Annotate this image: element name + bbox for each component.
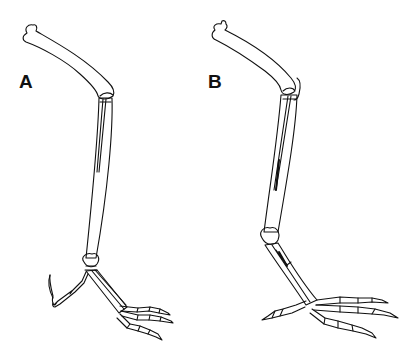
tibiotarsus-a <box>86 98 112 258</box>
femur-b <box>212 21 296 95</box>
hallux-b <box>262 301 306 320</box>
ankle-b <box>261 228 279 245</box>
tarsometatarsus-b-ridges <box>272 245 310 302</box>
toe-b-middle <box>314 305 398 318</box>
toe-a-upper <box>120 306 170 315</box>
hallux-a <box>50 272 86 305</box>
leg-skeleton-b <box>212 21 398 338</box>
leg-skeleton-a <box>23 25 173 340</box>
tarsometatarsus-b-shade <box>279 252 287 266</box>
toe-b-upper <box>316 297 388 305</box>
femur-b-knee-detail <box>283 88 295 91</box>
femur-a-knee-detail <box>100 93 113 96</box>
femur-a <box>23 25 114 99</box>
figure: A B <box>0 0 419 353</box>
toe-a-middle <box>121 311 173 323</box>
tarsometatarsus-a-ridges <box>92 270 126 309</box>
